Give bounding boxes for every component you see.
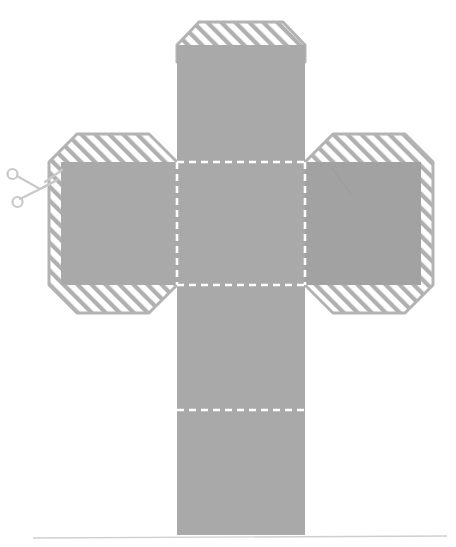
face-group-vertical bbox=[177, 45, 305, 535]
cube-net-canvas: Cube Net Papercraft Template Printable c… bbox=[0, 0, 456, 547]
face-right-group bbox=[305, 162, 421, 285]
face-right bbox=[305, 162, 421, 285]
face-left bbox=[61, 162, 177, 285]
scissors-handle-upper bbox=[8, 169, 18, 179]
face-left-group bbox=[61, 162, 177, 285]
footer-rule bbox=[33, 536, 447, 538]
cube-net-diagram bbox=[0, 0, 456, 547]
scissors-handle-lower bbox=[13, 197, 23, 207]
face-vertical-strip bbox=[177, 45, 305, 535]
footer-rule-group bbox=[33, 536, 447, 538]
